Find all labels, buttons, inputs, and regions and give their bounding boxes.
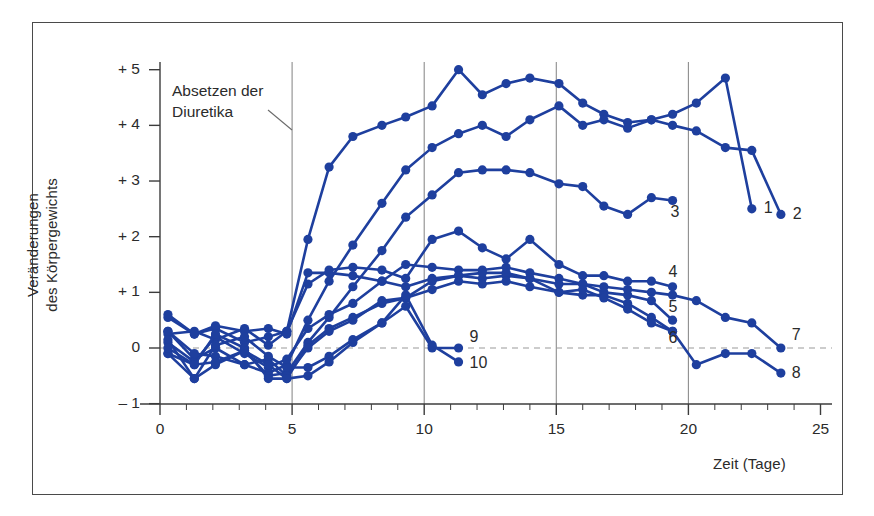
series-point (163, 335, 172, 344)
series-point (502, 165, 511, 174)
series-point (647, 288, 656, 297)
series-point (303, 324, 312, 333)
series-point (428, 190, 437, 199)
series-point (211, 341, 220, 350)
series-point (478, 121, 487, 130)
series-point (692, 296, 701, 305)
series-point (282, 374, 291, 383)
series-point (401, 112, 410, 121)
series-point (578, 99, 587, 108)
series-point (454, 65, 463, 74)
series-point (668, 282, 677, 291)
series-point (692, 360, 701, 369)
series-point (478, 165, 487, 174)
series-end-label-10: 10 (470, 354, 488, 372)
series-point (282, 355, 291, 364)
series-point (324, 357, 333, 366)
series-point (377, 318, 386, 327)
series-point (401, 213, 410, 222)
series-point (578, 121, 587, 130)
series-point (578, 182, 587, 191)
series-point (599, 201, 608, 210)
series-point (211, 329, 220, 338)
series-point (599, 293, 608, 302)
series-point (303, 371, 312, 380)
series-point (647, 193, 656, 202)
series-point (163, 310, 172, 319)
series-point (554, 101, 563, 110)
y-axis-title: Veränderungen des Körpergewichts (23, 140, 61, 350)
series-point (324, 163, 333, 172)
series-point (324, 277, 333, 286)
series-point (264, 332, 273, 341)
annotation-leader-line (268, 110, 292, 130)
series-point (264, 374, 273, 383)
series-point (623, 210, 632, 219)
y-tick-label-2: + 2 (104, 227, 140, 245)
series-point (747, 204, 756, 213)
series-point (240, 346, 249, 355)
series-point (776, 343, 785, 352)
series-point (554, 79, 563, 88)
y-tick-label-4: + 4 (104, 115, 140, 133)
series-point (647, 115, 656, 124)
series-point (303, 316, 312, 325)
series-point (190, 360, 199, 369)
series-point (211, 321, 220, 330)
series-point (303, 363, 312, 372)
series-point (163, 343, 172, 352)
series-point (348, 271, 357, 280)
series-point (647, 277, 656, 286)
series-end-label-2: 2 (793, 205, 802, 223)
series-point (303, 268, 312, 277)
series-point (348, 263, 357, 272)
series-point (428, 263, 437, 272)
series-point (692, 126, 701, 135)
series-point (502, 254, 511, 263)
series-point (747, 318, 756, 327)
series-point (428, 101, 437, 110)
series-point (377, 296, 386, 305)
series-point (623, 285, 632, 294)
series-point (401, 260, 410, 269)
series-point (303, 343, 312, 352)
x-axis-title: Zeit (Tage) (713, 455, 786, 472)
annotation-absetzen-der-diuretika: Absetzen der Diuretika (172, 80, 263, 122)
series-point (190, 374, 199, 383)
series-point (348, 299, 357, 308)
series-point (240, 332, 249, 341)
series-point (428, 235, 437, 244)
series-point (578, 271, 587, 280)
series-point (525, 73, 534, 82)
series-point (623, 304, 632, 313)
series-point (282, 329, 291, 338)
series-point (599, 271, 608, 280)
series-point (525, 115, 534, 124)
series-point (348, 282, 357, 291)
series-point (502, 277, 511, 286)
series-point (264, 352, 273, 361)
series-end-label-5: 5 (669, 298, 678, 316)
series-point (721, 143, 730, 152)
y-tick-label--1: – 1 (104, 394, 140, 412)
series-point (190, 329, 199, 338)
y-tick-label-3: + 3 (104, 171, 140, 189)
series-point (282, 363, 291, 372)
series-point (647, 296, 656, 305)
series-end-label-1: 1 (764, 199, 773, 217)
series-point (377, 265, 386, 274)
series-point (478, 243, 487, 252)
series-point (348, 132, 357, 141)
series-point (454, 227, 463, 236)
series-point (599, 282, 608, 291)
x-tick-label-25: 25 (801, 420, 841, 438)
series-point (454, 168, 463, 177)
series-point (377, 199, 386, 208)
series-end-label-8: 8 (792, 364, 801, 382)
series-point (525, 235, 534, 244)
series-point (428, 285, 437, 294)
x-tick-label-0: 0 (140, 420, 180, 438)
series-point (623, 124, 632, 133)
y-tick-label-1: + 1 (104, 282, 140, 300)
series-point (264, 341, 273, 350)
